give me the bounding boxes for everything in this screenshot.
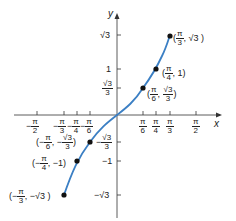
ytick-neg-1: −1: [102, 157, 112, 166]
point-label-neg-pi-6: (−π6, −√33): [36, 134, 76, 151]
xtick-pi-3: π3: [166, 118, 174, 135]
xtick-pi-4: π4: [152, 118, 160, 135]
ytick-neg-sqrt3-over-3: −√33: [96, 134, 112, 151]
ytick-sqrt3-over-3: √33: [102, 80, 113, 97]
point-neg-pi-6: [87, 139, 92, 144]
y-axis-arrow-icon: [115, 13, 120, 19]
point-pi-4: [153, 66, 158, 71]
point-label-pi-6: (π6, √33): [147, 86, 176, 103]
point-label-pi-4: (π4, 1): [162, 65, 186, 82]
y-axis-label: y: [108, 9, 113, 19]
ytick-1: 1: [106, 65, 111, 74]
x-axis-arrow-icon: [216, 113, 222, 118]
xtick-neg-pi-6: −π6: [80, 118, 93, 135]
ytick-sqrt3: √3: [100, 31, 110, 40]
ytick-neg-sqrt3: −√3: [94, 191, 109, 200]
xtick-pi-6: π6: [139, 118, 147, 135]
point-label-neg-pi-3: (−π3, −√3 ): [9, 188, 51, 205]
point-neg-pi-4: [74, 158, 79, 163]
xtick-pi-2: π2: [192, 118, 200, 135]
point-neg-pi-3: [61, 192, 66, 197]
point-pi-3: [167, 33, 172, 38]
point-pi-6: [140, 85, 145, 90]
point-label-pi-3: (π3, √3 ): [173, 30, 204, 47]
point-label-neg-pi-4: (−π4, −1): [32, 155, 66, 172]
x-axis-label: x: [214, 119, 219, 129]
xtick-neg-pi-2: −π2: [26, 118, 39, 135]
